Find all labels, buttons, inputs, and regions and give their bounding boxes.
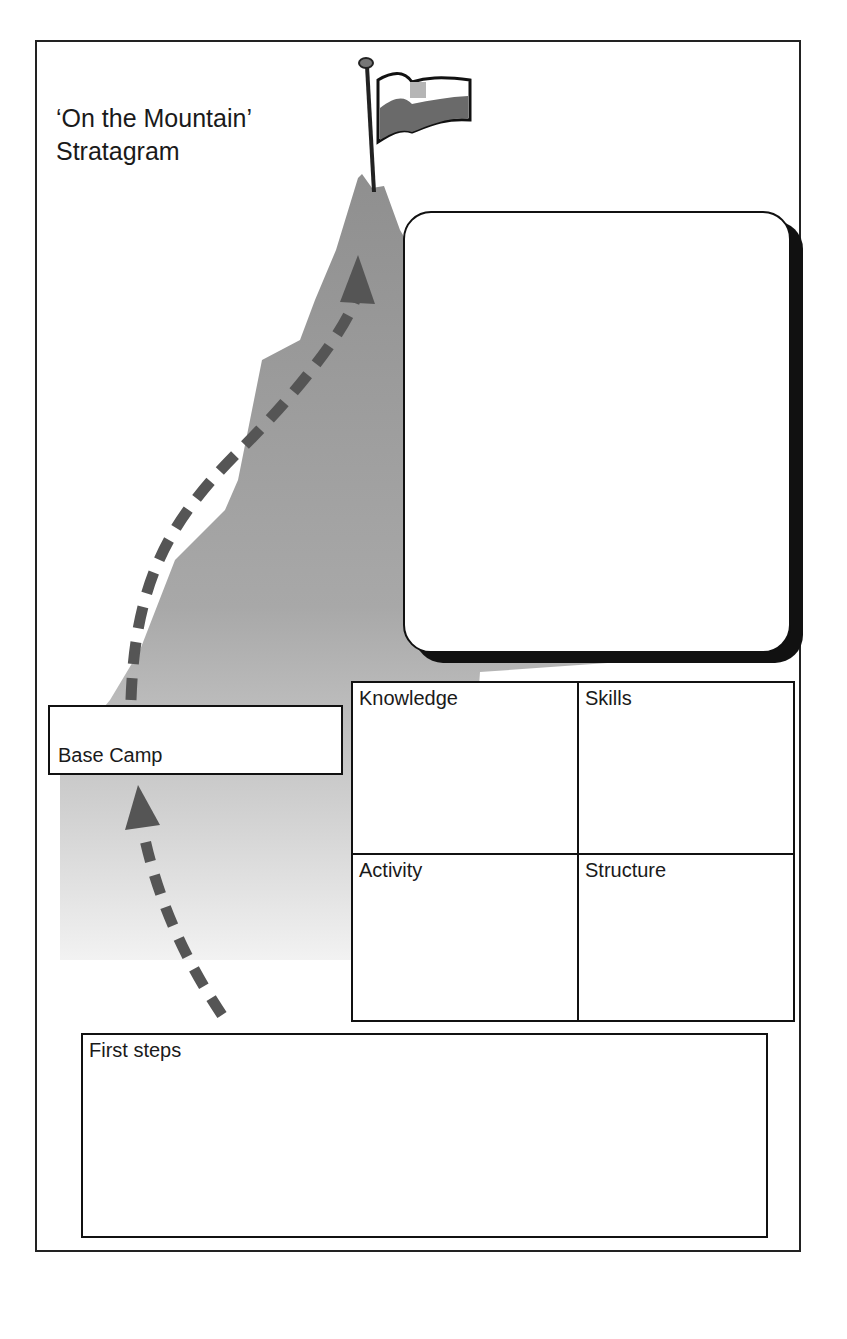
summit-goal-box[interactable] [403, 211, 791, 653]
activity-box[interactable]: Activity [353, 855, 579, 1020]
first-steps-box[interactable]: First steps [81, 1033, 768, 1238]
flag-icon [359, 58, 470, 192]
structure-box[interactable]: Structure [579, 855, 793, 1020]
first-steps-label: First steps [89, 1039, 181, 1062]
base-camp-label: Base Camp [58, 744, 163, 767]
activity-label: Activity [359, 859, 422, 882]
base-camp-box[interactable]: Base Camp [48, 705, 343, 775]
structure-label: Structure [585, 859, 666, 882]
skills-label: Skills [585, 687, 632, 710]
quadrant-grid: Knowledge Skills Activity Structure [351, 681, 795, 1022]
skills-box[interactable]: Skills [579, 683, 793, 855]
knowledge-label: Knowledge [359, 687, 458, 710]
knowledge-box[interactable]: Knowledge [353, 683, 579, 855]
